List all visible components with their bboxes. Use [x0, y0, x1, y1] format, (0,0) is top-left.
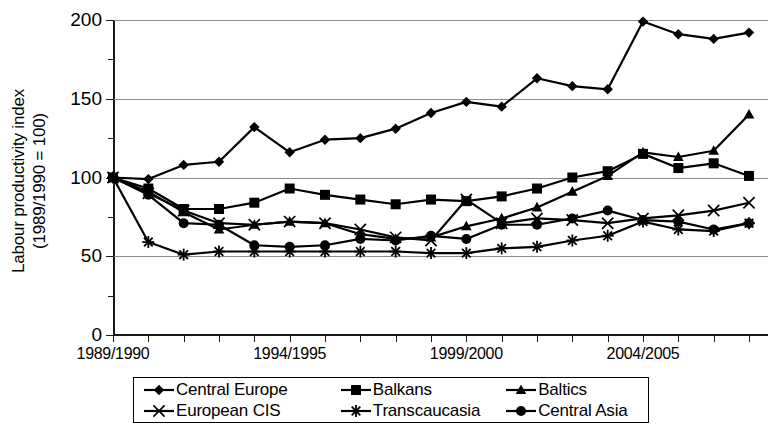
data-point-circle: [567, 213, 577, 223]
legend-marker-star: [339, 402, 373, 420]
legend-marker-square: [339, 381, 373, 399]
legend: Central EuropeBalkansBaltics European CI…: [133, 377, 649, 423]
series-baltics: [108, 109, 755, 243]
data-point-circle: [497, 220, 507, 230]
data-point-circle: [391, 236, 401, 246]
data-point-diamond: [461, 97, 471, 107]
chart-figure: Labour productivity index(1989/1990 = 10…: [0, 0, 774, 425]
data-point-circle: [603, 206, 613, 216]
data-point-star: [460, 247, 472, 259]
data-point-star: [531, 241, 543, 253]
data-point-diamond: [390, 123, 400, 133]
x-tick-mark: [749, 335, 750, 342]
data-point-diamond: [178, 160, 188, 170]
data-point-star: [178, 249, 190, 261]
legend-item-central-asia[interactable]: Central Asia: [504, 402, 642, 420]
y-tick-label: 0: [46, 325, 102, 344]
x-tick-mark: [290, 335, 291, 342]
legend-label: Transcaucasia: [373, 402, 480, 420]
data-point-star: [496, 242, 508, 254]
legend-marker-diamond: [142, 381, 176, 399]
legend-key: [339, 402, 373, 420]
y-tick-label: 150: [46, 89, 102, 108]
legend-item-european-cis[interactable]: European CIS: [142, 402, 339, 420]
data-point-square: [744, 171, 754, 181]
legend-label: Central Europe: [176, 381, 288, 399]
data-point-circle: [108, 173, 118, 183]
data-point-square: [497, 191, 507, 201]
legend-row-2: European CISTranscaucasiaCentral Asia: [142, 400, 642, 421]
data-point-circle: [744, 218, 754, 228]
legend-label: Baltics: [538, 381, 587, 399]
data-point-diamond: [355, 133, 365, 143]
data-point-circle: [461, 234, 471, 244]
data-point-diamond: [673, 29, 683, 39]
y-tick-label: 200: [46, 10, 102, 29]
legend-marker-cross: [142, 402, 176, 420]
data-point-circle: [320, 240, 330, 250]
data-point-star: [566, 235, 578, 247]
legend-row-1: Central EuropeBalkansBaltics: [142, 379, 642, 400]
data-point-circle: [214, 220, 224, 230]
x-tick-mark: [113, 335, 114, 342]
x-tick-label: 1999/2000: [411, 345, 521, 362]
data-point-circle: [673, 217, 683, 227]
x-tick-mark: [431, 335, 432, 342]
legend-item-transcaucasia[interactable]: Transcaucasia: [339, 402, 504, 420]
legend-item-baltics[interactable]: Baltics: [504, 381, 642, 399]
legend-marker-triangle: [504, 381, 538, 399]
y-axis-title-line1: Labour productivity index: [9, 89, 28, 273]
legend-marker-circle: [504, 402, 538, 420]
data-point-square: [426, 195, 436, 205]
data-point-diamond: [154, 384, 164, 394]
data-point-diamond: [744, 27, 754, 37]
data-point-diamond: [143, 174, 153, 184]
x-tick-mark: [537, 335, 538, 342]
data-point-star: [425, 247, 437, 259]
series-balkans: [108, 149, 754, 214]
legend-item-central-europe[interactable]: Central Europe: [142, 381, 339, 399]
legend-item-balkans[interactable]: Balkans: [339, 381, 504, 399]
x-tick-mark: [466, 335, 467, 342]
x-tick-mark: [572, 335, 573, 342]
data-point-circle: [285, 242, 295, 252]
data-point-square: [214, 204, 224, 214]
legend-key: [142, 381, 176, 399]
data-point-square: [673, 163, 683, 173]
y-axis-title: Labour productivity index(1989/1990 = 10…: [8, 31, 50, 331]
legend-label: Balkans: [373, 381, 432, 399]
data-point-diamond: [602, 84, 612, 94]
series-line: [113, 178, 749, 255]
data-point-square: [709, 158, 719, 168]
data-point-circle: [709, 224, 719, 234]
data-point-star: [142, 236, 154, 248]
x-tick-mark: [148, 335, 149, 342]
data-point-star: [390, 246, 402, 258]
series-line: [113, 22, 749, 180]
data-point-square: [351, 385, 361, 395]
data-point-circle: [179, 218, 189, 228]
x-tick-mark: [714, 335, 715, 342]
x-tick-mark: [360, 335, 361, 342]
x-tick-mark: [643, 335, 644, 342]
x-tick-mark: [219, 335, 220, 342]
plot-area: 050100150200: [113, 20, 768, 336]
data-point-star: [602, 230, 614, 242]
data-point-circle: [532, 220, 542, 230]
x-tick-mark: [502, 335, 503, 342]
data-point-star: [350, 405, 362, 417]
data-point-diamond: [638, 16, 648, 26]
x-tick-mark: [184, 335, 185, 342]
data-point-circle: [249, 240, 259, 250]
data-point-square: [285, 184, 295, 194]
data-point-square: [320, 190, 330, 200]
data-point-circle: [426, 231, 436, 241]
y-tick-label: 50: [46, 246, 102, 265]
data-point-square: [355, 195, 365, 205]
legend-label: European CIS: [176, 402, 280, 420]
legend-key: [504, 402, 538, 420]
data-point-diamond: [320, 135, 330, 145]
legend-key: [504, 381, 538, 399]
series-central-asia: [108, 173, 754, 252]
data-point-circle: [143, 190, 153, 200]
